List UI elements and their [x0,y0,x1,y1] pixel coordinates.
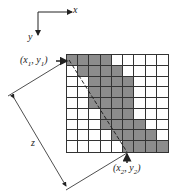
end-point-label: (x2, y2) [113,163,141,176]
start-point-label: (x1, y1) [20,55,48,68]
pixel-line-diagram: x y (x1, y1) (x2, y2) z [0,0,179,193]
x-axis-label: x [73,5,77,15]
diagram-lines [0,0,179,193]
distance-dimension-arrow [14,98,66,186]
ideal-line-dashed [69,60,127,152]
distance-label: z [31,138,35,148]
y-axis-label: y [28,32,32,42]
